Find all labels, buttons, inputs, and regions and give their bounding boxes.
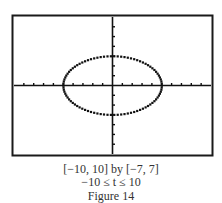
t-range-caption: −10 ≤ t ≤ 10	[0, 176, 222, 189]
calculator-graph	[0, 0, 222, 160]
figure-label: Figure 14	[0, 190, 222, 203]
